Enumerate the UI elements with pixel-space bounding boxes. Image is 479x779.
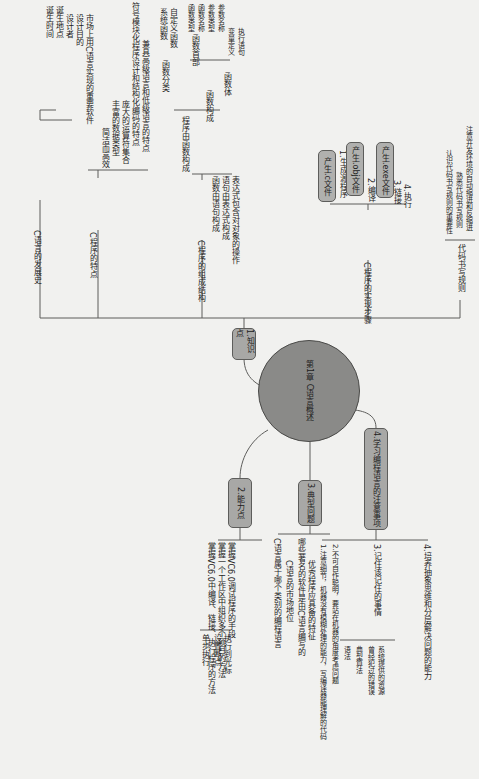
problem-item: C语言的市场地位 xyxy=(284,560,293,622)
central-topic[interactable]: 第1章 C语言概述 xyxy=(258,340,360,442)
rules-label: 代码书写规则 xyxy=(456,244,465,292)
body-item: 执行语句 xyxy=(236,28,245,56)
structure-item: 表达式包含对对象的操作 xyxy=(230,176,239,264)
feature-item: 兼具高级语言和低级语言的特点 xyxy=(140,40,149,152)
central-topic-label: 第1章 C语言概述 xyxy=(304,360,315,421)
history-item: 诞生时间 xyxy=(44,6,53,38)
feature-item: 庞大的运算符集合 xyxy=(120,100,129,164)
history-item: 诞生地点 xyxy=(54,6,63,38)
remember-item: 曾经犯过的错误 xyxy=(366,646,375,695)
history-label: C语言的发展史 xyxy=(32,230,41,284)
remember-item: 系统提供的资源 xyxy=(376,646,385,695)
debug-item: 执行到光标 xyxy=(222,634,231,674)
node-problems[interactable]: 3.典型问题 xyxy=(298,480,322,526)
connector-lines xyxy=(0,0,479,779)
ability-item: 掌握VC6.0中编译、链接、执行程序的方法 xyxy=(206,542,215,694)
header-item: 参数名称 xyxy=(216,4,225,32)
note-item: 1.注意细节，机器没有模糊处理的能力，写编译器能理解的代码 xyxy=(318,544,327,740)
header-item: 函数类型 xyxy=(186,4,195,32)
composition-label: 函数构成 xyxy=(204,90,213,122)
classification-label: 函数分类 xyxy=(160,60,169,92)
problem-item: C语言属于哪个类别的编程语言 xyxy=(272,538,281,648)
rules-item: 认识代码书写规则的重要性 xyxy=(444,150,453,234)
structure-item: 函数由语句构成 xyxy=(210,176,219,232)
step-item: 2.编译 xyxy=(366,178,375,202)
steps-label: C程序的实现步骤 xyxy=(362,262,371,324)
body-item: 变量定义 xyxy=(226,28,235,56)
feature-item: 丰富的数据类型 xyxy=(110,100,119,156)
feature-item: 符号模块化程序设计和结构化编码的特点 xyxy=(130,2,139,146)
note-item: 4.培养抽象思维和分层解决问题的能力 xyxy=(422,544,431,680)
structure-label: C程序的组成结构 xyxy=(196,240,205,302)
node-knowledge[interactable]: 1.知识点 xyxy=(232,328,256,360)
header-label: 函数首部 xyxy=(190,34,199,66)
feature-item: 简洁而高效 xyxy=(100,128,109,168)
debug-item: 设置断点 xyxy=(212,634,221,666)
features-label: C程序的特点 xyxy=(88,232,97,278)
debug-item: 单步执行 xyxy=(200,634,209,666)
classification-item: 自定义函数 xyxy=(168,8,177,48)
node-ability-label: 2.能力点 xyxy=(235,487,246,519)
callout-exe-file: 产生.exe文件 xyxy=(376,142,394,198)
debug-label: 掌握VC6.0调试程序的手段 xyxy=(226,542,235,638)
history-item: 设计者 xyxy=(64,14,73,38)
callout-obj-file: 产生.obj文件 xyxy=(346,142,364,196)
history-item: 设计目的 xyxy=(74,14,83,46)
node-ability[interactable]: 2.能力点 xyxy=(228,478,252,528)
rules-item: 熟悉代码书写规则 xyxy=(454,172,463,228)
callout-label: 产生.exe文件 xyxy=(380,146,391,195)
node-notes-label: 4.学习编程语言的注意事项 xyxy=(371,431,382,527)
structure-item: 语句由表达式构成 xyxy=(220,176,229,240)
note-item: 2.不可自作聪明，要站在机器的角度考虑问题 xyxy=(330,544,339,684)
node-knowledge-label: 1.知识点 xyxy=(233,329,255,359)
problem-item: 优秀程序应具备的特征 xyxy=(306,560,315,640)
header-item: 参数类型 xyxy=(206,4,215,32)
body-label: 函数体 xyxy=(222,72,231,96)
remember-label: 3.记住该记住的事情 xyxy=(372,544,381,616)
node-notes[interactable]: 4.学习编程语言的注意事项 xyxy=(364,428,388,530)
step-item: 4.执行 xyxy=(402,184,411,208)
remember-item: 典型算法 xyxy=(354,646,363,674)
remember-item: 语法 xyxy=(342,646,351,660)
problem-item: 哪些著名的软件是由C语言编写的 xyxy=(296,538,305,656)
node-problems-label: 3.典型问题 xyxy=(305,483,316,523)
callout-label: 产生.c文件 xyxy=(322,157,333,196)
history-item: 市场上用C语言实现的重要软件 xyxy=(84,14,93,124)
callout-c-file: 产生.c文件 xyxy=(318,150,336,202)
rules-item: 注意开发环境的自动缩进和反缩进 xyxy=(464,126,473,231)
header-item: 函数名称 xyxy=(196,4,205,32)
callout-label: 产生.obj文件 xyxy=(350,146,361,193)
functions-label: 程序由函数构成 xyxy=(180,116,189,172)
classification-item: 系统函数 xyxy=(158,8,167,40)
